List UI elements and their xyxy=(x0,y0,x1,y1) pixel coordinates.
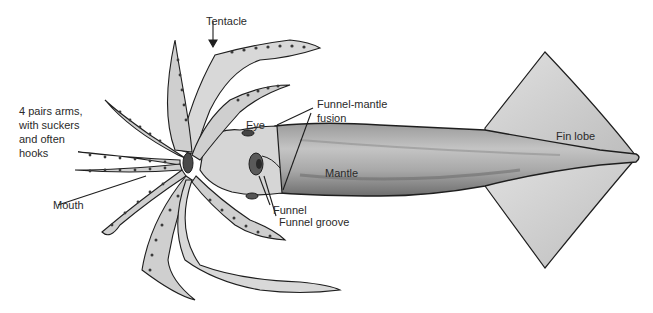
squid-illustration xyxy=(0,0,653,313)
label-mantle: Mantle xyxy=(325,166,358,180)
label-fin-lobe: Fin lobe xyxy=(556,129,595,143)
label-tentacle: Tentacle xyxy=(206,14,247,28)
squid-diagram: Tentacle 4 pairs arms, with suckers and … xyxy=(0,0,653,313)
mouth xyxy=(183,153,193,173)
label-funnel-groove: Funnel groove xyxy=(279,215,349,229)
label-eye: Eye xyxy=(246,118,265,132)
label-arms: 4 pairs arms, with suckers and often hoo… xyxy=(19,104,83,160)
label-funnel-mantle-fusion: Funnel-mantle fusion xyxy=(317,97,387,125)
label-mouth: Mouth xyxy=(53,198,84,212)
